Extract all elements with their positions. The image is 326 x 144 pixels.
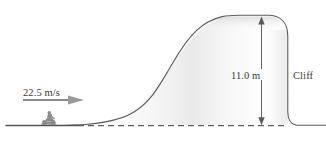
- cliff-label: Cliff: [293, 71, 313, 82]
- speed-label: 22.5 m/s: [23, 88, 60, 99]
- motorcycle-icon: [41, 111, 57, 125]
- physics-figure: 22.5 m/s 11.0 m Cliff: [0, 0, 326, 144]
- arrow-right-head-icon: [68, 96, 84, 105]
- height-label: 11.0 m: [231, 71, 260, 82]
- figure-canvas: [0, 0, 326, 144]
